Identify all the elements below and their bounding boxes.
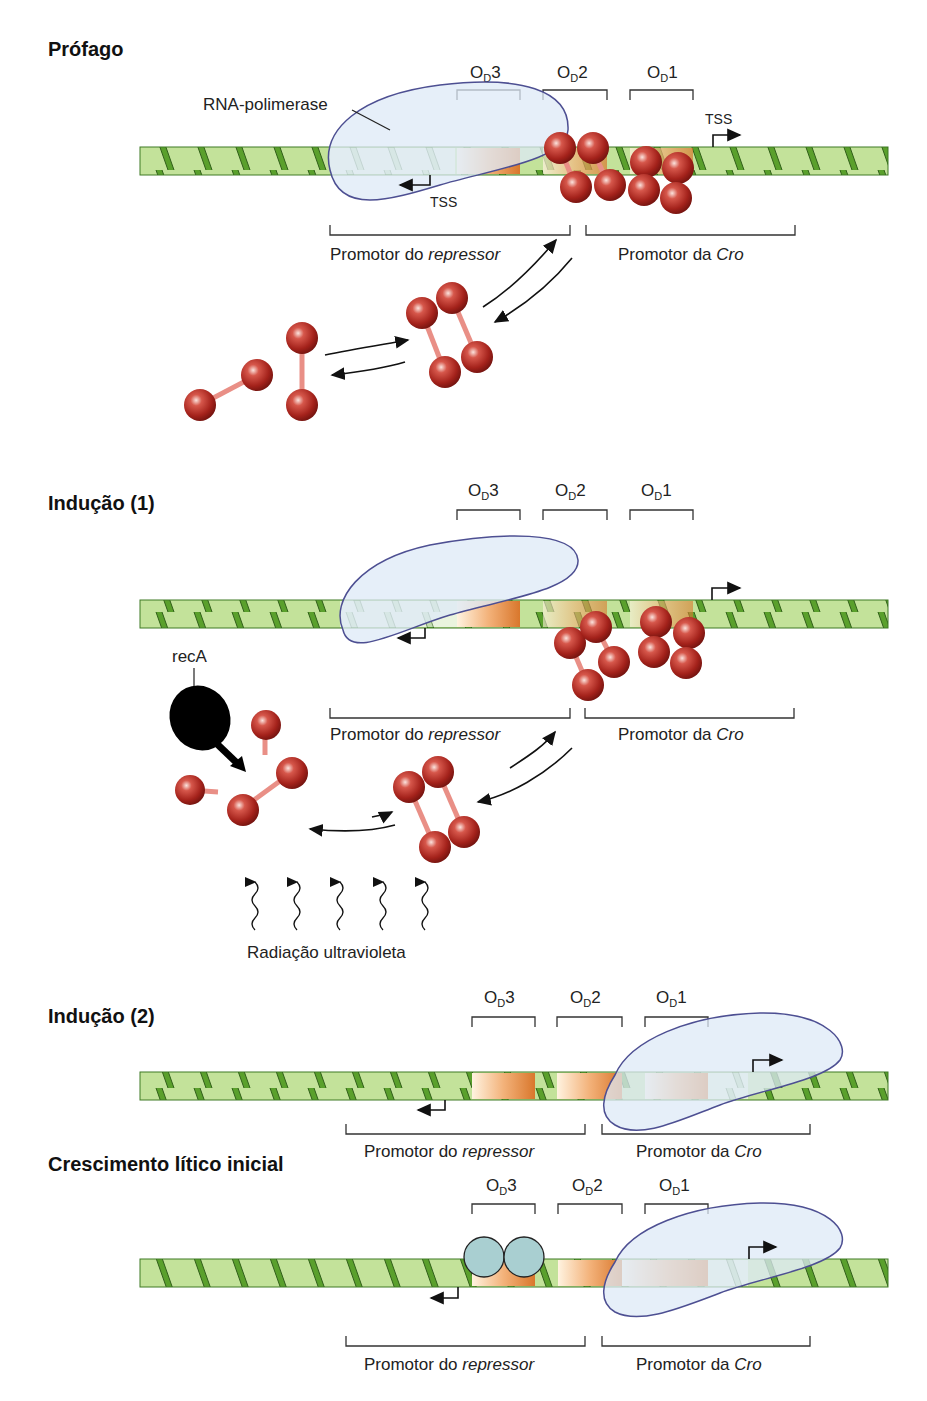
- promoter-cro-label: Promotor da Cro: [618, 245, 744, 264]
- operator-od3-bracket: [472, 1017, 535, 1027]
- panel-title: Crescimento lítico inicial: [48, 1153, 284, 1175]
- promoter-repressor-label: Promotor do repressor: [330, 245, 501, 264]
- equilibrium-arrow: [332, 362, 405, 375]
- promoter-cro-label: Promotor da Cro: [636, 1142, 762, 1161]
- operator-labels: OD3 OD2 OD1: [457, 481, 693, 520]
- operator-od1-bracket: [630, 90, 693, 100]
- reca-arrow: [215, 742, 238, 764]
- free-repressor-tetramer: [406, 282, 493, 388]
- tss-cro-arrow: [712, 588, 740, 600]
- operator-od2-label: OD2: [572, 1176, 603, 1197]
- tss-cro-arrow: [713, 135, 740, 147]
- rna-polymerase-label: RNA-polimerase: [203, 95, 328, 114]
- promoter-cro-bracket: [586, 225, 795, 235]
- tss-repressor-arrow: [418, 1100, 445, 1110]
- reca-label: recA: [172, 647, 208, 666]
- rna-polymerase: [328, 82, 568, 200]
- dna-strand: [140, 600, 888, 628]
- uv-label: Radiação ultravioleta: [247, 943, 406, 962]
- free-repressor-tetramer: [393, 756, 480, 863]
- equilibrium-arrow: [478, 748, 572, 802]
- panel-title: Indução (1): [48, 492, 155, 514]
- equilibrium-arrow: [510, 732, 555, 768]
- tss-left-label: TSS: [430, 194, 457, 210]
- operator-labels: OD3 OD2 OD1: [472, 988, 708, 1027]
- panel-title: Prófago: [48, 38, 124, 60]
- equilibrium-arrow: [325, 340, 408, 355]
- operator-od3-bracket: [457, 510, 520, 520]
- operator-od3-label: OD3: [484, 988, 515, 1009]
- promoter-repressor-bracket: [330, 225, 570, 235]
- operator-od2-label: OD2: [557, 63, 588, 84]
- panel-crescimento-litico: Crescimento lítico inicial OD3 OD2 OD1 P…: [48, 1153, 888, 1374]
- promoter-repressor-bracket: [330, 708, 570, 718]
- operator-od1-label: OD1: [656, 988, 687, 1009]
- operator-od3-bracket: [472, 1204, 535, 1214]
- lambda-switch-diagram: Prófago OD3 OD2 OD1 RNA-polimerase TSS T…: [0, 0, 927, 1401]
- tss-right-label: TSS: [705, 111, 732, 127]
- operator-od2-bracket: [557, 1017, 622, 1027]
- operator-od3-label: OD3: [486, 1176, 517, 1197]
- promoter-cro-label: Promotor da Cro: [636, 1355, 762, 1374]
- panel-inducao-2: Indução (2) OD3 OD2 OD1 Promotor do repr…: [48, 988, 888, 1161]
- tss-repressor-arrow: [431, 1287, 458, 1298]
- operator-od3-label: OD3: [470, 63, 501, 84]
- rna-polymerase: [604, 1013, 843, 1130]
- promoter-cro-bracket: [585, 708, 794, 718]
- panel-inducao-1: Indução (1) OD3 OD2 OD1: [48, 481, 888, 962]
- reca-protein: [159, 675, 241, 760]
- rna-polymerase: [604, 1203, 843, 1317]
- operator-od1-label: OD1: [641, 481, 672, 502]
- promoter-cro-bracket: [602, 1336, 810, 1346]
- operator-labels: OD3 OD2 OD1: [472, 1176, 708, 1214]
- equilibrium-arrow: [310, 825, 395, 831]
- promoter-repressor-label: Promotor do repressor: [330, 725, 501, 744]
- operator-od1-bracket: [630, 510, 693, 520]
- promoter-cro-label: Promotor da Cro: [618, 725, 744, 744]
- promoter-repressor-bracket: [346, 1124, 585, 1134]
- equilibrium-arrow: [372, 812, 392, 817]
- promoter-repressor-bracket: [346, 1336, 585, 1346]
- promoter-repressor-label: Promotor do repressor: [364, 1355, 535, 1374]
- operator-od2-bracket: [543, 510, 607, 520]
- operator-od2-label: OD2: [570, 988, 601, 1009]
- operator-od1-label: OD1: [659, 1176, 690, 1197]
- free-repressor-monomers: [184, 322, 318, 421]
- operator-od1-label: OD1: [647, 63, 678, 84]
- operator-od3-label: OD3: [468, 481, 499, 502]
- promoter-repressor-label: Promotor do repressor: [364, 1142, 535, 1161]
- panel-title: Indução (2): [48, 1005, 155, 1027]
- operator-od2-label: OD2: [555, 481, 586, 502]
- uv-radiation-icons: [252, 882, 428, 930]
- operator-od2-bracket: [558, 1204, 622, 1214]
- panel-profago: Prófago OD3 OD2 OD1 RNA-polimerase TSS T…: [48, 38, 888, 421]
